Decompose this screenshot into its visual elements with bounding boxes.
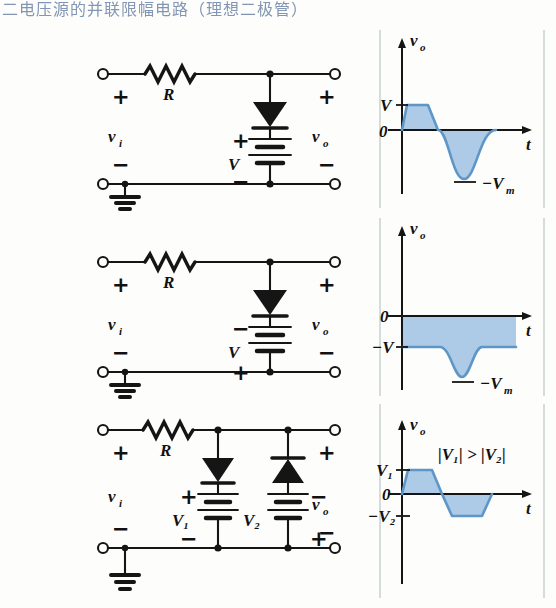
x-axis-arrow xyxy=(522,490,532,498)
x-axis-label: t xyxy=(526,499,532,518)
battery-icon-2 xyxy=(268,494,308,518)
output-terminal-bottom xyxy=(330,179,340,189)
negative-peak-label: −V xyxy=(480,374,503,393)
output-plus-sign: + xyxy=(318,273,336,297)
output-terminal-bottom xyxy=(330,367,340,377)
output-plus-sign: + xyxy=(318,85,336,109)
y-axis-label-sub: o xyxy=(420,229,426,241)
input-label-sub: i xyxy=(119,325,123,337)
resistor-icon xyxy=(145,254,195,270)
y-axis-label: v xyxy=(410,31,418,50)
input-label-sub: i xyxy=(119,497,123,509)
y-axis-label-sub: o xyxy=(420,41,426,53)
figure-row-1: R + − + − v i v o + V − xyxy=(0,24,556,214)
ytick-label-V: V xyxy=(380,96,393,115)
output-label: v xyxy=(312,315,320,334)
battery-2-label: V₂ xyxy=(243,511,260,530)
input-minus-sign: − xyxy=(112,341,130,365)
ytick-label-zero: 0 xyxy=(379,122,388,141)
resistor-label: R xyxy=(162,273,174,292)
diode-icon-1 xyxy=(202,458,234,483)
input-terminal-top xyxy=(98,425,108,435)
output-label: v xyxy=(312,127,320,146)
input-plus-sign: + xyxy=(112,85,130,109)
battery-2-bottom-sign: + xyxy=(310,527,328,551)
waveform-1: v o t V 0 −V m xyxy=(366,24,556,214)
diode-icon-2 xyxy=(272,458,304,483)
y-axis-arrow xyxy=(398,226,406,236)
resistor-icon xyxy=(145,66,195,82)
figure-row-3: R + − + − v i v o + V₁ − − V₂ + xyxy=(0,398,556,608)
battery-top-sign: − xyxy=(232,317,250,341)
input-terminal-top xyxy=(98,69,108,79)
resistor-icon xyxy=(143,422,193,438)
battery-2-top-sign: − xyxy=(310,485,328,509)
waveform-2: v o t 0 −V −V m xyxy=(366,212,556,402)
diode-icon xyxy=(253,102,287,128)
y-axis-label-sub: o xyxy=(420,425,426,437)
battery-1-top-sign: + xyxy=(180,485,198,509)
waveform-3: v o t V₁ 0 −V₂ |V₁| > |V₂| xyxy=(366,398,556,608)
circuit-1: R + − + − v i v o + V − xyxy=(0,24,372,214)
output-minus-sign: − xyxy=(318,153,336,177)
output-terminal-top xyxy=(330,257,340,267)
ytick-label-V1: V₁ xyxy=(376,461,393,480)
ground-icon xyxy=(111,545,139,589)
x-axis-arrow xyxy=(522,312,532,320)
ytick-label-negV: −V xyxy=(372,338,395,357)
ytick-label-zero: 0 xyxy=(380,307,389,326)
output-terminal-top xyxy=(330,69,340,79)
input-label-sub: i xyxy=(119,137,123,149)
x-axis-label: t xyxy=(526,135,532,154)
input-label: v xyxy=(108,127,116,146)
figure-title: 二电压源的并联限幅电路（理想二极管） xyxy=(2,0,422,20)
resistor-label: R xyxy=(159,441,171,460)
output-terminal-top xyxy=(330,425,340,435)
comparison-annotation: |V₁| > |V₂| xyxy=(438,445,506,464)
battery-icon xyxy=(249,327,291,351)
battery-label: V xyxy=(228,343,241,362)
ytick-label-negV2: −V₂ xyxy=(368,507,396,526)
output-minus-sign: − xyxy=(318,341,336,365)
input-terminal-top xyxy=(98,257,108,267)
output-label-sub: o xyxy=(323,325,329,337)
figure-row-2: R + − + − v i v o − V + xyxy=(0,212,556,402)
input-terminal-bottom xyxy=(98,367,108,377)
input-plus-sign: + xyxy=(112,273,130,297)
output-plus-sign: + xyxy=(318,441,336,465)
circuit-3: R + − + − v i v o + V₁ − − V₂ + xyxy=(0,398,372,608)
input-minus-sign: − xyxy=(112,517,130,541)
negative-peak-label-sub: m xyxy=(504,384,513,396)
output-label-sub: o xyxy=(323,137,329,149)
battery-icon-1 xyxy=(198,494,238,518)
battery-bottom-sign: + xyxy=(232,361,250,385)
negative-peak-label-sub: m xyxy=(506,184,515,196)
y-axis-arrow xyxy=(398,420,406,430)
battery-1-bottom-sign: − xyxy=(180,527,198,551)
y-axis-label: v xyxy=(410,415,418,434)
battery-icon xyxy=(249,139,291,163)
circuit-2: R + − + − v i v o − V + xyxy=(0,212,372,402)
battery-top-sign: + xyxy=(232,129,250,153)
input-plus-sign: + xyxy=(112,441,130,465)
negative-peak-label: −V xyxy=(482,174,505,193)
input-terminal-bottom xyxy=(98,179,108,189)
input-terminal-bottom xyxy=(98,543,108,553)
ytick-label-zero: 0 xyxy=(382,485,391,504)
x-axis-arrow xyxy=(522,126,532,134)
input-label: v xyxy=(108,487,116,506)
input-label: v xyxy=(108,315,116,334)
input-minus-sign: − xyxy=(112,153,130,177)
y-axis-arrow xyxy=(398,38,406,48)
y-axis-label: v xyxy=(410,219,418,238)
battery-bottom-sign: − xyxy=(232,170,250,194)
resistor-label: R xyxy=(162,85,174,104)
x-axis-label: t xyxy=(526,321,532,340)
diode-icon xyxy=(253,290,287,316)
figure-page: 二电压源的并联限幅电路（理想二极管） xyxy=(0,0,556,608)
